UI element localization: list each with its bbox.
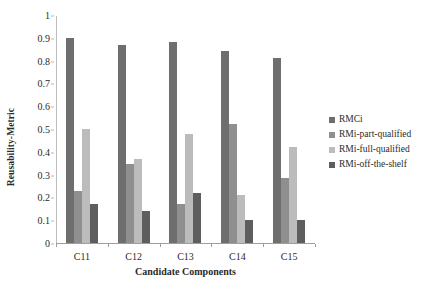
legend-item[interactable]: RMi-part-qualified <box>329 127 433 142</box>
x-axis-tick-label: C13 <box>177 252 194 262</box>
x-axis-tick-label: C12 <box>125 252 142 262</box>
bar-group-c14 <box>211 15 263 243</box>
x-axis-tick-mark <box>315 244 316 247</box>
y-axis-tick-mark <box>51 107 54 108</box>
y-axis-tick-label: 0 <box>45 239 50 249</box>
legend-swatch-icon <box>329 132 335 138</box>
x-axis-tick-label: C15 <box>281 252 298 262</box>
bar <box>281 178 289 243</box>
bar <box>229 124 237 243</box>
y-axis-tick-mark <box>51 130 54 131</box>
plot-area <box>56 16 315 244</box>
x-axis-tick-mark <box>160 244 161 247</box>
bar <box>289 147 297 243</box>
bar-chart: Reusability-Metric 00.10.20.30.40.50.60.… <box>0 0 435 294</box>
bar <box>177 204 185 243</box>
bar <box>245 220 253 243</box>
chart-legend: RMCiRMi-part-qualifiedRMi-full-qualified… <box>329 112 433 172</box>
bar <box>193 193 201 243</box>
bar <box>90 204 98 243</box>
x-axis-tick-label: C14 <box>229 252 246 262</box>
y-axis-tick-label: 0.7 <box>38 79 51 89</box>
y-axis-tick-label: 0.9 <box>38 34 51 44</box>
x-axis-tick-mark <box>211 244 212 247</box>
bar-group-c13 <box>160 15 212 243</box>
x-axis-title: Candidate Components <box>56 266 315 277</box>
y-axis-tick-label: 0.5 <box>38 125 51 135</box>
bar-group-c11 <box>56 15 108 243</box>
bar-group-c15 <box>263 15 315 243</box>
y-axis-tick-label: 0.6 <box>38 102 51 112</box>
y-axis-tick-mark <box>51 175 54 176</box>
y-axis-tick-mark <box>51 244 54 245</box>
bar <box>82 129 90 243</box>
bar <box>185 134 193 243</box>
legend-label: RMCi <box>339 115 363 125</box>
y-axis-tick-mark <box>51 61 54 62</box>
x-axis-tick-mark <box>263 244 264 247</box>
bar <box>297 220 305 243</box>
legend-item[interactable]: RMCi <box>329 112 433 127</box>
bar <box>74 191 82 243</box>
y-axis-tick-label: 1 <box>45 11 50 21</box>
x-axis-tick-mark <box>56 244 57 247</box>
y-axis-title: Reusability-Metric <box>0 0 22 294</box>
x-axis-tick-mark <box>108 244 109 247</box>
legend-item[interactable]: RMi-full-qualified <box>329 142 433 157</box>
x-axis-tick-label: C11 <box>74 252 90 262</box>
y-axis-tick-label: 0.1 <box>38 216 51 226</box>
bar <box>169 42 177 243</box>
bar <box>237 195 245 243</box>
legend-swatch-icon <box>329 162 335 168</box>
x-axis-tick-labels: C11C12C13C14C15 <box>56 248 315 264</box>
bar <box>221 51 229 243</box>
legend-item[interactable]: RMi-off-the-shelf <box>329 157 433 172</box>
legend-label: RMi-full-qualified <box>339 145 410 155</box>
y-axis-tick-mark <box>51 152 54 153</box>
y-axis-tick-mark <box>51 16 54 17</box>
bar <box>134 159 142 243</box>
legend-swatch-icon <box>329 147 335 153</box>
bar <box>126 164 134 243</box>
y-axis-tick-labels: 00.10.20.30.40.50.60.70.80.91 <box>22 16 54 244</box>
y-axis-tick-label: 0.2 <box>38 193 51 203</box>
bar <box>66 38 74 243</box>
legend-label: RMi-part-qualified <box>339 130 411 140</box>
y-axis-tick-mark <box>51 38 54 39</box>
y-axis-tick-label: 0.4 <box>38 148 51 158</box>
y-axis-tick-mark <box>51 198 54 199</box>
legend-label: RMi-off-the-shelf <box>339 160 407 170</box>
bar <box>118 45 126 243</box>
x-axis-line <box>56 243 315 244</box>
y-axis-tick-mark <box>51 84 54 85</box>
y-axis-tick-label: 0.3 <box>38 171 51 181</box>
bar <box>273 58 281 243</box>
legend-swatch-icon <box>329 117 335 123</box>
bar-group-c12 <box>108 15 160 243</box>
y-axis-tick-mark <box>51 221 54 222</box>
y-axis-tick-label: 0.8 <box>38 57 51 67</box>
bar <box>142 211 150 243</box>
